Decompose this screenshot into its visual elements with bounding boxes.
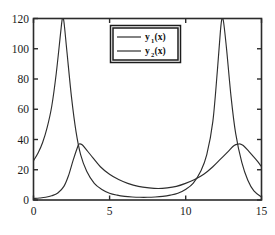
x-tick-label-5: 5 (107, 205, 113, 217)
chart-legend: y 1 (x) y 2 (x) (111, 26, 181, 63)
y-tick-label-60: 60 (18, 103, 30, 115)
legend-label-y1: y (145, 32, 150, 42)
y-tick-label-100: 100 (12, 43, 30, 55)
y-tick-label-40: 40 (18, 134, 30, 146)
y-tick-label-80: 80 (18, 73, 30, 85)
legend-label-y2-suffix: (x) (155, 46, 166, 57)
y-tick-label-20: 20 (18, 164, 30, 176)
y-tick-label-120: 120 (12, 13, 30, 25)
x-tick-label-15: 15 (256, 205, 268, 217)
line-chart: 0 20 40 60 80 100 120 0 5 10 15 (0, 0, 275, 235)
legend-label-y1-suffix: (x) (155, 32, 166, 43)
chart-figure: 0 20 40 60 80 100 120 0 5 10 15 (0, 0, 275, 235)
x-tick-label-0: 0 (31, 205, 37, 217)
legend-label-y2: y (145, 46, 150, 56)
x-tick-label-10: 10 (180, 205, 192, 217)
y-tick-label-0: 0 (23, 194, 29, 206)
